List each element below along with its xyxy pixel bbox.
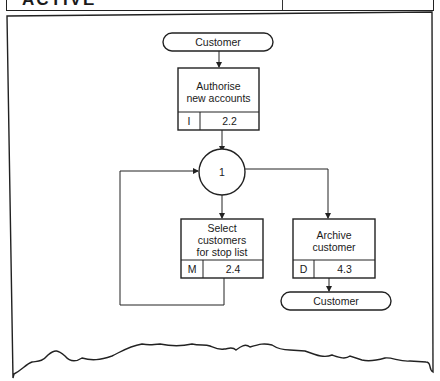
process-archive-title-line2: customer	[293, 241, 375, 253]
terminal-customer-bottom-label: Customer	[281, 295, 391, 307]
process-authorise-title-line1: Authorise	[178, 80, 259, 92]
process-select-type: M	[181, 263, 203, 275]
process-archive-title-line1: Archive	[293, 229, 375, 241]
process-authorise-number: 2.2	[200, 115, 259, 127]
process-archive-number: 4.3	[314, 263, 375, 275]
arrow-state-to-archive	[245, 169, 328, 218]
diagram-canvas	[0, 0, 440, 381]
process-authorise-type: I	[178, 115, 200, 127]
process-select-title-line2: customers	[181, 234, 263, 246]
process-archive-type: D	[293, 263, 314, 275]
process-select-number: 2.4	[203, 263, 263, 275]
process-select-title-line3: for stop list	[181, 246, 263, 258]
state-label: 1	[199, 166, 245, 178]
process-select-title: Select customers for stop list	[181, 222, 263, 258]
process-select-title-line1: Select	[181, 222, 263, 234]
process-archive-title: Archive customer	[293, 229, 375, 253]
terminal-customer-top-label: Customer	[163, 36, 273, 48]
process-authorise-title-line2: new accounts	[178, 92, 259, 104]
process-authorise-title: Authorise new accounts	[178, 80, 259, 104]
